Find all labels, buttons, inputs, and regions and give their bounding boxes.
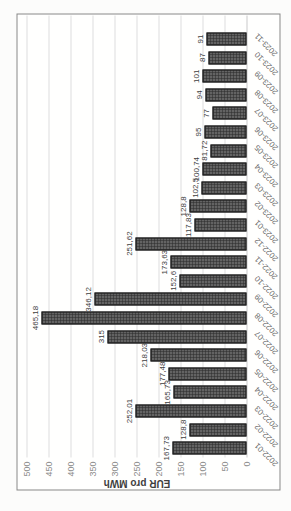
- bar-2023-09: [202, 70, 246, 83]
- y-tick-label-350: 350: [88, 462, 98, 488]
- bar-2023-01: [195, 219, 247, 232]
- y-tick-label-500: 500: [22, 462, 32, 488]
- y-tick-label-450: 450: [44, 462, 54, 488]
- bar-2023-05: [211, 144, 247, 157]
- bar-2022-01: [173, 442, 247, 455]
- y-tick-label-400: 400: [66, 462, 76, 488]
- y-tick-label-50: 50: [220, 462, 230, 488]
- value-label-2023-01: 117,83: [184, 213, 193, 237]
- bar-2022-06: [151, 349, 247, 362]
- bar-2022-12: [136, 237, 247, 250]
- value-label-2023-10: 87: [197, 53, 206, 62]
- bar-2022-08: [42, 312, 247, 325]
- bar-2022-04: [174, 386, 247, 399]
- value-label-2023-11: 91: [195, 35, 204, 44]
- bar-2022-02: [190, 423, 247, 436]
- value-label-2023-05: 81,72: [200, 141, 209, 161]
- value-label-2022-08: 465,18: [31, 306, 40, 330]
- bar-2022-03: [136, 405, 247, 418]
- bar-2023-10: [208, 51, 246, 64]
- value-label-2022-01: 167,73: [162, 436, 171, 460]
- gridline-300: [115, 16, 116, 458]
- rotated-bar-chart: EUR pro MWh 0501001502002503003504004505…: [17, 14, 281, 491]
- gridline-450: [49, 16, 50, 458]
- value-label-2022-07: 315: [97, 330, 106, 343]
- bar-2023-06: [205, 126, 247, 139]
- bar-2022-10: [179, 274, 246, 287]
- value-label-2023-08: 94: [194, 90, 203, 99]
- bar-2022-07: [108, 330, 247, 343]
- gridline-0: [247, 16, 248, 458]
- gridline-350: [93, 16, 94, 458]
- value-label-2023-02: 128,8: [179, 196, 188, 216]
- value-label-2023-06: 95: [194, 128, 203, 137]
- bar-2022-11: [170, 256, 246, 269]
- bar-2023-03: [201, 181, 246, 194]
- value-label-2022-03: 252,01: [125, 399, 134, 423]
- value-label-2023-07: 77: [202, 109, 211, 118]
- gridline-400: [71, 16, 72, 458]
- y-tick-label-300: 300: [110, 462, 120, 488]
- value-label-2023-04: 100,74: [191, 157, 200, 181]
- value-label-2022-05: 177,48: [157, 362, 166, 386]
- value-label-2022-06: 218,03: [140, 343, 149, 367]
- value-label-2022-12: 251,62: [125, 231, 134, 255]
- bar-2023-02: [190, 200, 247, 213]
- bar-2023-11: [206, 33, 246, 46]
- bar-2023-04: [202, 163, 246, 176]
- bar-2022-09: [94, 293, 246, 306]
- value-label-2022-09: 346,12: [83, 287, 92, 311]
- page: EUR pro MWh 0501001502002503003504004505…: [0, 0, 291, 511]
- value-label-2022-11: 173,63: [159, 250, 168, 274]
- value-label-2022-10: 152,6: [168, 271, 177, 291]
- value-label-2022-02: 128,8: [179, 420, 188, 440]
- bar-2022-05: [168, 367, 246, 380]
- y-tick-label-150: 150: [176, 462, 186, 488]
- bar-2023-07: [213, 107, 247, 120]
- y-tick-label-200: 200: [154, 462, 164, 488]
- value-label-2023-09: 101: [191, 70, 200, 83]
- y-tick-label-0: 0: [242, 462, 252, 488]
- y-tick-label-250: 250: [132, 462, 142, 488]
- gridline-500: [27, 16, 28, 458]
- y-tick-label-100: 100: [198, 462, 208, 488]
- bar-2023-08: [205, 88, 246, 101]
